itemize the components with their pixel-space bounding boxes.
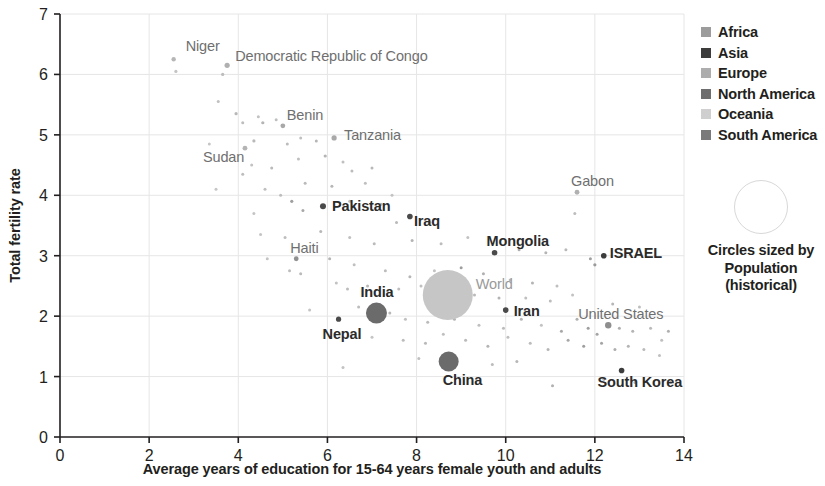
legend-label: Asia bbox=[718, 46, 748, 61]
scatter-point bbox=[502, 327, 505, 330]
point-label-haiti: Haiti bbox=[290, 240, 318, 256]
scatter-point-iraq bbox=[407, 214, 413, 220]
legend-swatch-icon bbox=[701, 109, 711, 119]
scatter-point bbox=[466, 236, 469, 239]
scatter-point bbox=[241, 173, 244, 176]
scatter-point bbox=[433, 269, 436, 272]
y-tick-label: 0 bbox=[39, 429, 48, 446]
scatter-point bbox=[555, 284, 558, 287]
point-label-democratic-republic-of-congo: Democratic Republic of Congo bbox=[235, 48, 428, 64]
scatter-point bbox=[297, 158, 300, 161]
scatter-point bbox=[301, 209, 304, 212]
scatter-point bbox=[544, 251, 547, 254]
point-label-benin: Benin bbox=[287, 107, 323, 123]
point-label-gabon: Gabon bbox=[571, 173, 614, 189]
point-label-iran: Iran bbox=[514, 303, 540, 319]
scatter-point-mongolia bbox=[492, 250, 498, 256]
scatter-point bbox=[335, 281, 338, 284]
scatter-point bbox=[299, 272, 302, 275]
legend-item-africa[interactable]: Africa bbox=[701, 22, 825, 43]
scatter-point bbox=[288, 269, 291, 272]
legend-item-south-america[interactable]: South America bbox=[701, 125, 825, 146]
scatter-point bbox=[397, 287, 400, 290]
scatter-point bbox=[600, 342, 603, 345]
scatter-point bbox=[587, 327, 590, 330]
size-note-line1: Circles sized by bbox=[697, 242, 825, 260]
size-reference-circle bbox=[734, 180, 788, 234]
scatter-point bbox=[330, 185, 333, 188]
scatter-point bbox=[460, 266, 463, 269]
scatter-point bbox=[346, 287, 349, 290]
y-tick-label: 6 bbox=[39, 66, 48, 83]
scatter-point bbox=[217, 100, 220, 103]
scatter-point-democratic-republic-of-congo bbox=[225, 63, 230, 68]
scatter-point bbox=[234, 112, 237, 115]
scatter-point bbox=[596, 333, 599, 336]
scatter-point bbox=[348, 236, 351, 239]
point-label-mongolia: Mongolia bbox=[487, 233, 551, 249]
legend-swatch-icon bbox=[701, 68, 711, 78]
scatter-point bbox=[611, 303, 614, 306]
point-label-india: India bbox=[360, 284, 394, 300]
scatter-point bbox=[391, 194, 394, 197]
legend-swatch-icon bbox=[701, 48, 711, 58]
scatter-point-nepal bbox=[336, 317, 341, 322]
labeled-data-points bbox=[171, 57, 624, 373]
scatter-point bbox=[658, 354, 661, 357]
point-label-united-states: United States bbox=[578, 306, 663, 322]
scatter-point bbox=[582, 345, 585, 348]
legend-label: Oceania bbox=[718, 107, 773, 122]
scatter-point-tanzania bbox=[332, 135, 337, 140]
x-tick-label: 0 bbox=[56, 447, 65, 464]
scatter-point bbox=[613, 348, 616, 351]
legend-item-asia[interactable]: Asia bbox=[701, 43, 825, 64]
scatter-point bbox=[324, 154, 327, 157]
scatter-point bbox=[261, 121, 264, 124]
scatter-point bbox=[593, 263, 596, 266]
scatter-point-benin bbox=[280, 123, 285, 128]
y-tick-label: 4 bbox=[39, 187, 48, 204]
scatter-point-south-korea bbox=[619, 368, 625, 374]
scatter-point bbox=[402, 339, 405, 342]
y-tick-label: 7 bbox=[39, 6, 48, 23]
scatter-point bbox=[257, 115, 260, 118]
scatter-point bbox=[364, 182, 367, 185]
scatter-point bbox=[215, 188, 218, 191]
scatter-point bbox=[417, 357, 420, 360]
y-axis-title: Total fertility rate bbox=[7, 168, 23, 283]
point-label-israel: ISRAEL bbox=[610, 245, 663, 261]
scatter-point bbox=[442, 333, 445, 336]
scatter-point bbox=[540, 324, 543, 327]
scatter-point bbox=[395, 221, 398, 224]
scatter-point-gabon bbox=[575, 190, 580, 195]
scatter-point bbox=[371, 336, 374, 339]
scatter-point bbox=[573, 212, 576, 215]
scatter-point bbox=[618, 327, 621, 330]
scatter-point bbox=[357, 306, 360, 309]
legend-item-europe[interactable]: Europe bbox=[701, 63, 825, 84]
legend-swatch-icon bbox=[701, 89, 711, 99]
scatter-point bbox=[174, 70, 177, 73]
point-label-south-korea: South Korea bbox=[598, 374, 684, 390]
scatter-point bbox=[660, 339, 663, 342]
legend-item-north-america[interactable]: North America bbox=[701, 84, 825, 105]
scatter-point bbox=[486, 345, 489, 348]
scatter-point-india bbox=[366, 303, 387, 324]
scatter-point bbox=[259, 233, 262, 236]
scatter-point bbox=[473, 293, 476, 296]
y-tick-label: 2 bbox=[39, 308, 48, 325]
scatter-point-china bbox=[439, 351, 459, 371]
scatter-point bbox=[350, 170, 353, 173]
scatter-point bbox=[440, 242, 443, 245]
point-label-world: World bbox=[476, 276, 513, 292]
scatter-point bbox=[498, 297, 501, 300]
scatter-point bbox=[266, 257, 269, 260]
scatter-point bbox=[264, 188, 267, 191]
legend-item-oceania[interactable]: Oceania bbox=[701, 104, 825, 125]
x-tick-label: 14 bbox=[675, 447, 693, 464]
scatter-point bbox=[404, 318, 407, 321]
scatter-point bbox=[270, 167, 273, 170]
scatter-point bbox=[649, 327, 652, 330]
scatter-point bbox=[328, 257, 331, 260]
scatter-point bbox=[279, 194, 282, 197]
